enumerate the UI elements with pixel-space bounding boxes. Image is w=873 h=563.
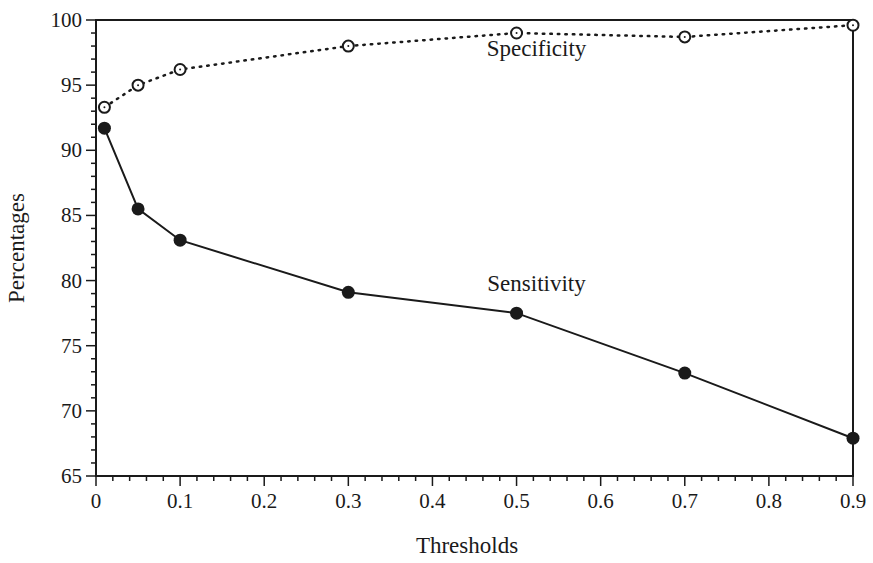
y-tick-label: 65 — [61, 464, 82, 488]
specificity-label: Specificity — [487, 36, 587, 61]
x-tick-label: 0.1 — [167, 489, 193, 513]
marker-center-dot — [103, 106, 105, 108]
y-tick-label: 70 — [61, 399, 82, 423]
series-specificity: Specificity — [99, 20, 859, 113]
x-tick-label: 0.2 — [251, 489, 277, 513]
x-tick-label: 0 — [91, 489, 102, 513]
y-tick-label: 100 — [51, 8, 83, 32]
x-tick-label: 0.8 — [756, 489, 782, 513]
y-axis: 65707580859095100 — [51, 8, 97, 488]
marker-center-dot — [179, 69, 181, 71]
filled-circle-marker — [678, 367, 691, 380]
filled-circle-marker — [847, 432, 860, 445]
y-tick-label: 90 — [61, 138, 82, 162]
y-axis-title: Percentages — [4, 193, 29, 303]
x-tick-label: 0.3 — [335, 489, 361, 513]
x-tick-label: 0.7 — [672, 489, 698, 513]
chart-canvas: 65707580859095100 00.10.20.30.40.50.60.7… — [0, 0, 873, 563]
filled-circle-marker — [510, 307, 523, 320]
x-axis-title: Thresholds — [416, 533, 518, 558]
y-tick-label: 85 — [61, 203, 82, 227]
sensitivity-line — [104, 128, 853, 438]
y-tick-label: 75 — [61, 334, 82, 358]
x-axis: 00.10.20.30.40.50.60.70.80.9 — [91, 476, 866, 513]
filled-circle-marker — [132, 202, 145, 215]
series-sensitivity: Sensitivity — [98, 122, 860, 445]
series-layer: SpecificitySensitivity — [98, 20, 860, 445]
sensitivity-label: Sensitivity — [487, 271, 586, 296]
x-tick-label: 0.9 — [840, 489, 866, 513]
filled-circle-marker — [174, 234, 187, 247]
marker-center-dot — [137, 84, 139, 86]
plot-border — [96, 20, 853, 476]
filled-circle-marker — [98, 122, 111, 135]
marker-center-dot — [852, 24, 854, 26]
x-tick-label: 0.4 — [419, 489, 446, 513]
specificity-line — [104, 25, 853, 107]
y-tick-label: 95 — [61, 73, 82, 97]
y-tick-label: 80 — [61, 269, 82, 293]
filled-circle-marker — [342, 286, 355, 299]
plot-frame — [96, 20, 853, 476]
x-tick-label: 0.6 — [588, 489, 614, 513]
marker-center-dot — [684, 36, 686, 38]
marker-center-dot — [516, 32, 518, 34]
x-tick-label: 0.5 — [503, 489, 529, 513]
marker-center-dot — [347, 45, 349, 47]
